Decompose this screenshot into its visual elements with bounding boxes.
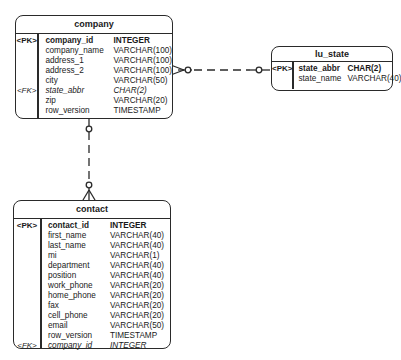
entity-contact[interactable]: contact <PK> <FK> contact_idINTEGER firs… bbox=[13, 200, 171, 349]
column-row: cityVARCHAR(50) bbox=[45, 76, 172, 86]
entity-company[interactable]: company <PK> <FK> company_idINTEGER comp… bbox=[15, 15, 173, 119]
fk-marker: <FK> bbox=[14, 341, 40, 351]
entity-title: contact bbox=[14, 201, 170, 219]
relationship-company-contact bbox=[83, 118, 95, 200]
pk-marker: <PK> bbox=[272, 64, 292, 74]
column-row: row_versionTIMESTAMP bbox=[48, 331, 164, 341]
entity-lu-state[interactable]: lu_state <PK> state_abbrCHAR(2) state_na… bbox=[271, 46, 393, 91]
pk-marker: <PK> bbox=[16, 36, 37, 46]
column-row: emailVARCHAR(50) bbox=[48, 321, 164, 331]
column-row: state_abbrCHAR(2) bbox=[45, 86, 172, 96]
column-row: company_idINTEGER bbox=[48, 341, 164, 351]
column-row: departmentVARCHAR(40) bbox=[48, 261, 164, 271]
column-row: miVARCHAR(1) bbox=[48, 251, 164, 261]
column-row: company_idINTEGER bbox=[45, 36, 172, 46]
column-row: company_nameVARCHAR(100) bbox=[45, 46, 172, 56]
pk-marker: <PK> bbox=[14, 221, 40, 231]
column-row: contact_idINTEGER bbox=[48, 221, 164, 231]
column-row: positionVARCHAR(40) bbox=[48, 271, 164, 281]
relationship-company-lu-state bbox=[168, 64, 270, 76]
column-row: home_phoneVARCHAR(20) bbox=[48, 291, 164, 301]
column-row: cell_phoneVARCHAR(20) bbox=[48, 311, 164, 321]
column-row: first_nameVARCHAR(40) bbox=[48, 231, 164, 241]
column-row: address_2VARCHAR(100) bbox=[45, 66, 172, 76]
column-row: state_nameVARCHAR(40) bbox=[298, 74, 401, 84]
entity-title: company bbox=[16, 16, 172, 34]
column-row: row_versionTIMESTAMP bbox=[45, 106, 172, 116]
column-row: address_1VARCHAR(100) bbox=[45, 56, 172, 66]
column-row: faxVARCHAR(20) bbox=[48, 301, 164, 311]
column-row: state_abbrCHAR(2) bbox=[298, 64, 401, 74]
column-row: zipVARCHAR(20) bbox=[45, 96, 172, 106]
column-row: last_nameVARCHAR(40) bbox=[48, 241, 164, 251]
entity-title: lu_state bbox=[272, 47, 392, 62]
column-row: work_phoneVARCHAR(20) bbox=[48, 281, 164, 291]
fk-marker: <FK> bbox=[16, 86, 37, 96]
